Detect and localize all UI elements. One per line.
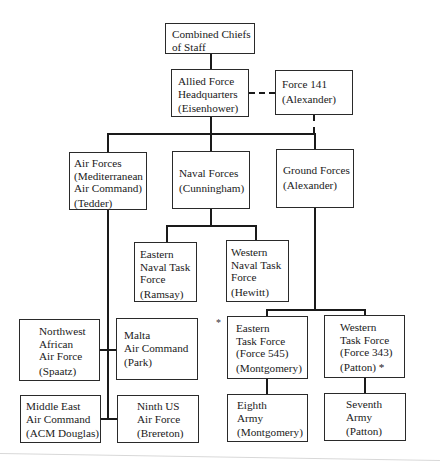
node-label: Allied Force — [178, 75, 243, 88]
node-commander: (Brereton) — [137, 427, 196, 440]
connector-to-etf — [266, 309, 268, 316]
node-label: Air Command — [124, 342, 195, 355]
connector-air-trunk — [107, 210, 109, 420]
node-label: Force — [140, 273, 194, 286]
node-label: Eastern — [236, 322, 305, 335]
asterisk-note-marker: * — [216, 317, 221, 328]
node-eighth-army: Eighth Army (Montgomery) — [227, 394, 308, 442]
node-label: Ground Forces — [283, 164, 348, 177]
node-label: Air Force — [137, 413, 196, 426]
node-label: Army — [237, 412, 305, 425]
connector-afhq-force141-dashed — [249, 92, 275, 94]
node-label: Naval Forces — [179, 167, 244, 180]
node-label: Task Force — [236, 335, 305, 348]
node-label: Eastern — [140, 248, 194, 261]
node-force-141: Force 141 (Alexander) — [275, 70, 353, 115]
connector-air-cross-lower — [100, 418, 117, 420]
node-combined-chiefs-of-staff: Combined Chiefs of Staff — [165, 23, 255, 54]
node-eastern-naval-task-force: Eastern Naval Task Force (Ramsay) — [134, 242, 197, 302]
node-label: Western — [340, 321, 402, 334]
node-eastern-task-force: Eastern Task Force (Force 545) (Montgome… — [227, 316, 308, 379]
node-label: African — [39, 338, 97, 351]
page-edge-line — [0, 453, 440, 461]
node-label: Force — [231, 271, 286, 284]
node-label: Ninth US — [137, 400, 196, 413]
node-commander: (Alexander) — [282, 93, 347, 106]
node-commander: (Eisenhower) — [178, 102, 243, 115]
connector-to-air — [107, 133, 109, 152]
node-seventh-army: Seventh Army (Patton) — [324, 393, 406, 441]
node-commander: (Park) — [124, 356, 195, 369]
node-commander: (Tedder) — [74, 197, 144, 210]
node-western-naval-task-force: Western Naval Task Force (Hewitt) — [226, 240, 289, 302]
node-label: Air Forces — [74, 157, 144, 170]
node-western-task-force: Western Task Force (Force 343) (Patton) … — [324, 315, 405, 378]
node-commander: (Ramsay) — [140, 288, 194, 301]
connector-to-ground — [314, 133, 316, 149]
connector-ground-trunk — [314, 208, 316, 310]
node-ground-forces: Ground Forces (Alexander) — [276, 149, 354, 208]
node-label: (Force 545) — [236, 347, 305, 360]
node-northwest-african-air-force: Northwest African Air Force (Spaatz) — [19, 319, 100, 381]
connector-afhq-down — [210, 117, 212, 134]
node-label: of Staff — [172, 41, 249, 54]
connector-force141-ground-dashed — [313, 115, 315, 133]
connector-to-wntf — [255, 225, 257, 240]
node-label: Middle East — [26, 400, 98, 413]
node-commander: (ACM Douglas) — [26, 427, 98, 440]
node-commander: (Patton) * — [340, 361, 402, 374]
node-label: Air Command — [26, 413, 98, 426]
connector-to-entf — [166, 225, 168, 242]
connector-to-naval — [210, 133, 212, 151]
connector-ccs-afhq — [210, 54, 212, 69]
node-commander: (Cunningham) — [179, 182, 244, 195]
node-naval-forces: Naval Forces (Cunningham) — [172, 151, 250, 209]
node-commander: (Alexander) — [283, 179, 348, 192]
node-malta-air-command: Malta Air Command (Park) — [116, 318, 198, 380]
node-allied-force-headquarters: Allied Force Headquarters (Eisenhower) — [171, 69, 249, 117]
connector-wtf-seventh — [364, 378, 366, 393]
node-label: Naval Task — [140, 261, 194, 274]
node-label: (Force 343) — [340, 346, 402, 359]
node-label: Task Force — [340, 334, 402, 347]
node-label: Western — [231, 246, 286, 259]
node-commander: (Montgomery) — [236, 362, 305, 375]
connector-etf-eighth — [266, 379, 268, 394]
node-label: Force 141 — [282, 78, 347, 91]
node-air-forces: Air Forces (Mediterranean Air Command) (… — [69, 152, 147, 210]
node-label: Eighth — [237, 399, 305, 412]
node-label: Seventh — [346, 398, 403, 411]
connector-naval-bar — [166, 225, 256, 227]
connector-ground-bar — [266, 309, 365, 311]
node-commander: (Hewitt) — [231, 286, 286, 299]
node-label: Army — [346, 411, 403, 424]
node-ninth-us-air-force: Ninth US Air Force (Brereton) — [117, 395, 199, 443]
node-label: Northwest — [39, 325, 97, 338]
node-label: Air Force — [39, 350, 97, 363]
connector-air-cross-upper — [99, 349, 117, 351]
node-label: (Mediterranean — [74, 170, 144, 183]
node-label: Combined Chiefs — [172, 28, 249, 41]
node-label: Air Command) — [74, 182, 144, 195]
node-label: Naval Task — [231, 259, 286, 272]
node-commander: (Spaatz) — [39, 365, 97, 378]
connector-naval-down — [210, 209, 212, 225]
node-label: Malta — [124, 329, 195, 342]
node-label: Headquarters — [178, 88, 243, 101]
node-middle-east-air-command: Middle East Air Command (ACM Douglas) — [20, 395, 101, 443]
node-commander: (Montgomery) — [237, 426, 305, 439]
node-commander: (Patton) — [346, 425, 403, 438]
